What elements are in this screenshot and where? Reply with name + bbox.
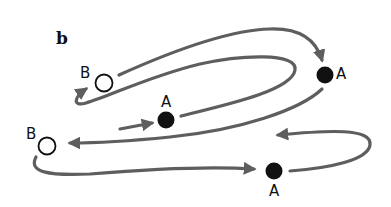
node-B2 [39, 138, 56, 155]
node-label-B2: B [26, 127, 36, 142]
node-label-A1: A [161, 95, 171, 110]
edge-B1-A2 [119, 29, 322, 75]
node-A2 [317, 67, 334, 84]
node-label-B1: B [80, 66, 90, 81]
start-arrow [120, 123, 152, 129]
trajectory-diagram: b A B A B A [0, 0, 391, 207]
edge-B2-A3 [34, 157, 254, 174]
edge-A3-loop [278, 131, 370, 171]
node-A1 [158, 112, 175, 129]
node-label-A2: A [336, 67, 346, 82]
diagram-paths [0, 0, 391, 207]
node-A3 [266, 163, 283, 180]
node-label-A3: A [269, 184, 279, 199]
node-B1 [96, 75, 113, 92]
